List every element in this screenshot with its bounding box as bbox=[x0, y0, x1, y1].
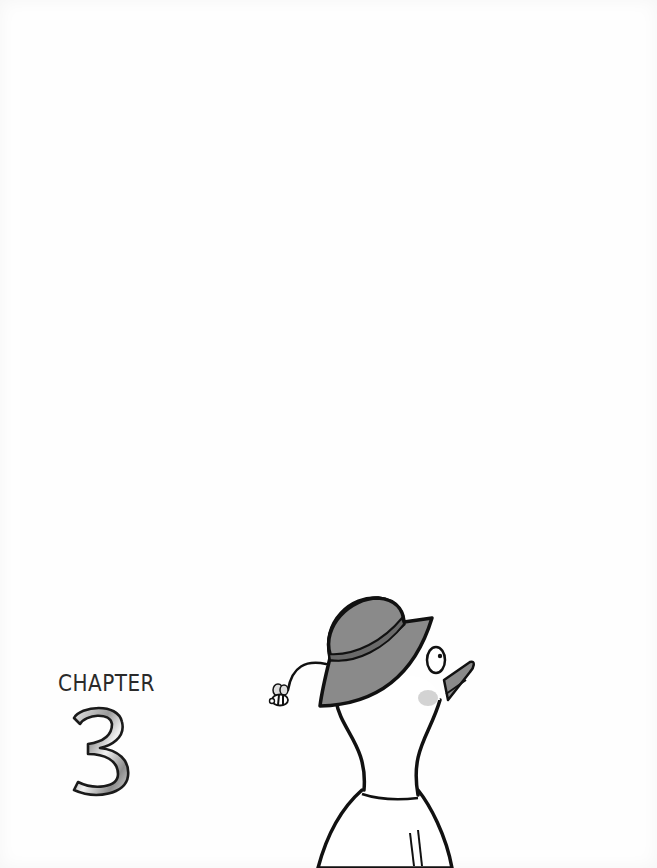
chapter-label: CHAPTER bbox=[58, 669, 155, 697]
book-page: CHAPTER 3 bbox=[0, 0, 657, 868]
body-outline bbox=[318, 790, 452, 868]
bee-icon bbox=[270, 684, 289, 706]
beak bbox=[444, 662, 474, 700]
chapter-illustration bbox=[260, 590, 490, 868]
head-outline bbox=[336, 700, 440, 795]
bee-trail bbox=[288, 663, 326, 690]
eye bbox=[427, 647, 445, 673]
chapter-number: 3 bbox=[66, 700, 136, 800]
cheek bbox=[418, 690, 438, 706]
